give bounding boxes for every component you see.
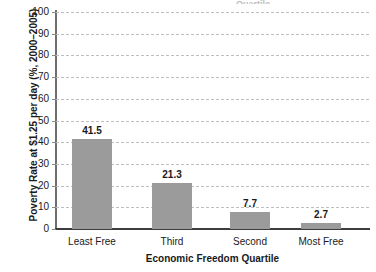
bar[interactable]: 7.7 [230, 212, 270, 229]
y-axis-tick-label: 10 [38, 202, 49, 212]
y-axis-tick-label: 30 [38, 159, 49, 169]
y-axis-tick-label: 100 [32, 7, 49, 17]
y-axis-tick-label: 20 [38, 181, 49, 191]
x-axis-tick-label: Most Free [298, 236, 343, 248]
x-axis-tick-label: Least Free [68, 236, 116, 248]
gridline [56, 121, 369, 122]
cut-off-title-text: Quartile [236, 0, 306, 4]
gridline [56, 34, 369, 35]
gridline [56, 55, 369, 56]
y-axis-tick-label: 60 [38, 94, 49, 104]
bar-value-label: 41.5 [82, 125, 101, 136]
y-axis-tick-label: 50 [38, 116, 49, 126]
y-axis-tick-mark [52, 121, 56, 122]
y-axis-tick-mark [52, 229, 56, 230]
y-axis-tick-mark [52, 142, 56, 143]
y-axis-tick-mark [52, 34, 56, 35]
y-axis-tick-label: 90 [38, 29, 49, 39]
y-axis-tick-label: 80 [38, 50, 49, 60]
bar[interactable]: 41.5 [72, 139, 112, 229]
x-axis-tick-label: Second [233, 236, 267, 248]
y-axis-tick-mark [52, 77, 56, 78]
y-axis-tick-mark [52, 12, 56, 13]
plot-area: 100908070605040302010041.521.37.72.7 [56, 12, 369, 229]
bar[interactable]: 2.7 [301, 223, 341, 229]
y-axis-tick-mark [52, 186, 56, 187]
y-axis-tick-mark [52, 164, 56, 165]
gridline [56, 77, 369, 78]
bar-value-label: 2.7 [314, 209, 328, 220]
y-axis-tick-mark [52, 207, 56, 208]
gridline [56, 12, 369, 13]
bar[interactable]: 21.3 [152, 183, 192, 229]
x-axis-tick-label: Third [161, 236, 184, 248]
x-axis-title: Economic Freedom Quartile [56, 253, 369, 265]
bar-value-label: 7.7 [243, 198, 257, 209]
y-axis-tick-label: 0 [43, 224, 49, 234]
y-axis-tick-mark [52, 99, 56, 100]
y-axis-tick-label: 40 [38, 137, 49, 147]
gridline [56, 99, 369, 100]
y-axis-tick-mark [52, 55, 56, 56]
chart-figure: Quartile Poverty Rate at $1.25 per day (… [0, 0, 376, 272]
y-axis-tick-label: 70 [38, 72, 49, 82]
bar-value-label: 21.3 [162, 169, 181, 180]
